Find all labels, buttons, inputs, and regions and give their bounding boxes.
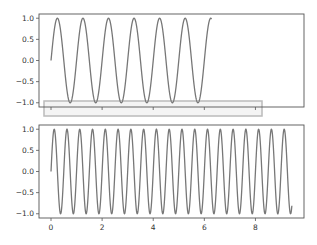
top-axes: 1.00.50.0−0.5−1.0: [16, 14, 304, 116]
x-tick-label: 2: [100, 223, 105, 232]
x-tick-label: 6: [202, 223, 207, 232]
figure: 1.00.50.0−0.5−1.0 1.00.50.0−0.5−1.002468: [0, 0, 317, 245]
axes-frame: [39, 14, 304, 107]
x-tick-label: 4: [151, 223, 156, 232]
y-tick-label: −1.0: [16, 209, 34, 218]
y-tick-label: −0.5: [16, 188, 34, 197]
x-tick-label: 8: [253, 223, 258, 232]
y-tick-label: 0.0: [22, 167, 34, 176]
bottom-axes: 1.00.50.0−0.5−1.002468: [16, 125, 304, 232]
x-tick-label: 0: [49, 223, 54, 232]
line-series: [51, 129, 292, 214]
y-tick-label: 0.5: [22, 146, 34, 155]
y-tick-label: −1.0: [16, 98, 34, 107]
y-tick-label: −0.5: [16, 77, 34, 86]
y-tick-label: 0.0: [22, 56, 34, 65]
y-tick-label: 1.0: [22, 125, 34, 134]
y-tick-label: 0.5: [22, 35, 34, 44]
line-series: [51, 18, 212, 103]
y-tick-label: 1.0: [22, 14, 34, 23]
